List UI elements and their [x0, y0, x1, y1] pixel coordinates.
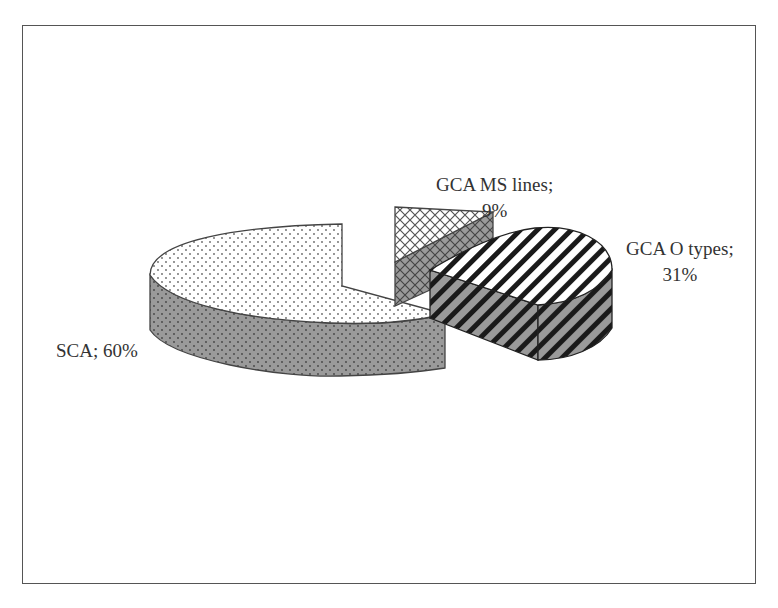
pie-chart [0, 0, 778, 608]
label-gca-o-types-value: 31% [626, 262, 734, 288]
label-gca-o-types: GCA O types; 31% [626, 236, 734, 288]
label-gca-ms-lines: GCA MS lines; 9% [436, 172, 553, 224]
label-gca-ms-lines-value: 9% [436, 198, 553, 224]
label-gca-ms-lines-name: GCA MS lines; [436, 172, 553, 198]
label-gca-o-types-name: GCA O types; [626, 236, 734, 262]
label-sca-text: SCA; 60% [56, 338, 138, 364]
label-sca: SCA; 60% [56, 338, 138, 364]
